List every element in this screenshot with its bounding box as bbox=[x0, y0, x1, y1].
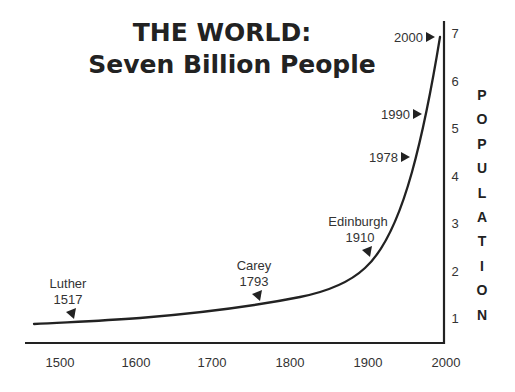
y-axis-label: POPULATION bbox=[477, 87, 488, 323]
annotation-luther-name: Luther bbox=[50, 276, 88, 291]
annotation-2000-year: 2000 bbox=[394, 30, 423, 45]
annotation-1990: 1990 bbox=[381, 107, 422, 122]
annotation-edinburgh-name: Edinburgh bbox=[328, 214, 387, 229]
y-axis-label-letter: P bbox=[477, 136, 486, 152]
annotation-edinburgh-year: 1910 bbox=[346, 230, 375, 245]
annotation-carey-year: 1793 bbox=[240, 274, 269, 289]
x-tick-1500: 1500 bbox=[46, 355, 75, 370]
annotation-1990-year: 1990 bbox=[381, 107, 410, 122]
y-axis-label-letter: O bbox=[477, 282, 488, 298]
chart-title-line2: Seven Billion People bbox=[88, 50, 376, 79]
arrow-right-icon bbox=[413, 109, 422, 119]
y-tick-2: 2 bbox=[451, 264, 458, 279]
annotation-luther: Luther 1517 bbox=[50, 276, 88, 319]
x-tick-1900: 1900 bbox=[354, 355, 383, 370]
y-axis-label-letter: U bbox=[477, 160, 487, 176]
x-tick-1800: 1800 bbox=[276, 355, 305, 370]
arrow-right-icon bbox=[401, 152, 410, 162]
annotation-1978-year: 1978 bbox=[369, 150, 398, 165]
y-tick-3: 3 bbox=[451, 216, 458, 231]
x-tick-1700: 1700 bbox=[198, 355, 227, 370]
population-chart: THE WORLD: Seven Billion People 1500 160… bbox=[0, 0, 515, 392]
arrow-marker-icon bbox=[362, 246, 372, 257]
annotation-2000: 2000 bbox=[394, 30, 435, 45]
y-tick-4: 4 bbox=[451, 169, 458, 184]
x-tick-2000: 2000 bbox=[432, 355, 461, 370]
x-tick-1600: 1600 bbox=[122, 355, 151, 370]
y-axis-label-letter: L bbox=[478, 185, 487, 201]
y-axis-label-letter: A bbox=[477, 209, 487, 225]
y-axis-label-letter: N bbox=[477, 307, 487, 323]
arrow-marker-icon bbox=[252, 290, 262, 301]
y-tick-7: 7 bbox=[451, 26, 458, 41]
y-tick-1: 1 bbox=[451, 311, 458, 326]
arrow-marker-icon bbox=[66, 308, 76, 319]
annotation-carey-name: Carey bbox=[237, 258, 272, 273]
chart-title-line1: THE WORLD: bbox=[133, 18, 312, 47]
y-tick-6: 6 bbox=[451, 74, 458, 89]
y-axis-label-letter: T bbox=[478, 233, 487, 249]
x-tick-labels: 1500 1600 1700 1800 1900 2000 bbox=[46, 355, 461, 370]
y-axis-label-letter: O bbox=[477, 111, 488, 127]
y-axis-label-letter: P bbox=[477, 87, 486, 103]
annotation-carey: Carey 1793 bbox=[237, 258, 272, 301]
population-curve bbox=[34, 37, 440, 324]
annotation-1978: 1978 bbox=[369, 150, 410, 165]
y-tick-labels: 1 2 3 4 5 6 7 bbox=[451, 26, 458, 326]
y-tick-5: 5 bbox=[451, 121, 458, 136]
annotation-luther-year: 1517 bbox=[54, 292, 83, 307]
y-axis-label-letter: I bbox=[480, 258, 484, 274]
arrow-right-icon bbox=[426, 32, 435, 42]
